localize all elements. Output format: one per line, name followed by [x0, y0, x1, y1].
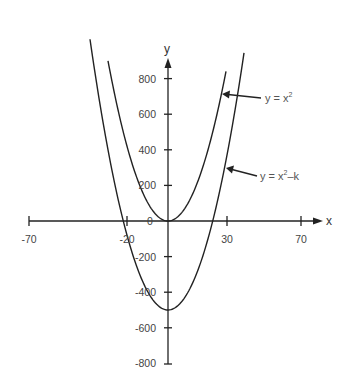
origin-label: 0 — [147, 215, 153, 227]
annotation-label-x-squared: y = x2 — [265, 91, 293, 104]
y-tick-label: 400 — [138, 144, 156, 156]
annotation-arrow-line — [232, 170, 257, 177]
curve-x-squared — [108, 61, 226, 221]
y-tick-label: 800 — [138, 73, 156, 85]
y-axis-label: y — [164, 42, 170, 56]
x-axis-arrow-icon — [313, 218, 323, 225]
arrowhead-icon — [222, 91, 230, 99]
y-tick-label: -600 — [135, 322, 156, 334]
y-tick-label: -400 — [135, 286, 156, 298]
arrowhead-icon — [226, 166, 234, 174]
y-axis-arrow-icon — [165, 58, 172, 68]
x-tick-label: 70 — [295, 233, 307, 245]
y-tick-label: -800 — [135, 357, 156, 369]
x-tick-label: -20 — [119, 233, 134, 245]
annotation-label-x-squared-minus-k: y = x2–k — [260, 169, 300, 182]
y-tick-label: 200 — [138, 179, 156, 191]
y-tick-label: 600 — [138, 108, 156, 120]
x-tick-label: -70 — [21, 233, 36, 245]
annotation-x-squared: y = x2 — [222, 91, 293, 105]
annotation-arrow-line — [228, 95, 261, 99]
y-tick-label: -200 — [135, 251, 156, 263]
chart: x y -70-203070 800600400200-200-400-600-… — [0, 0, 351, 388]
x-axis-label: x — [326, 214, 332, 228]
x-tick-label: 30 — [221, 233, 233, 245]
curves — [90, 39, 244, 310]
curve-x-squared-minus-k — [90, 39, 244, 310]
annotation-x-squared-minus-k: y = x2–k — [226, 166, 300, 183]
